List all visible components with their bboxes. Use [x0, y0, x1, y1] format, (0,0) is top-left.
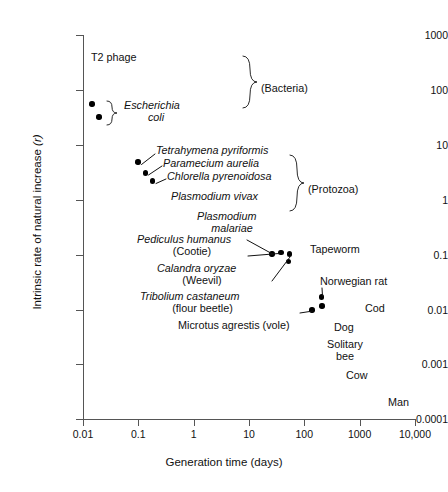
label-escherichia-coli-species: coli [124, 111, 188, 123]
x-tick-label-10000: 10,000 [385, 429, 445, 440]
y-tick-0.0001 [76, 419, 83, 420]
label-tribolium-common-name: (flour beetle) [140, 302, 265, 314]
y-tick-0.001 [76, 364, 83, 365]
label-microtus-agrestis: Microtus agrestis (vole) [178, 319, 290, 331]
y-tick-label-100: 100 [388, 85, 448, 96]
label-group-bacteria: (Bacteria) [261, 82, 308, 94]
y-tick-label-0.0001: 0.0001 [388, 414, 448, 425]
label-calandra-common-name: (Weevil) [157, 274, 247, 286]
y-tick-label-1000: 1000 [388, 30, 448, 41]
y-tick-label-0.01: 0.01 [388, 305, 448, 316]
label-chlorella-pyrenoidosa: Chlorella pyrenoidosa [167, 170, 271, 182]
data-point [135, 159, 140, 164]
data-point [143, 170, 148, 175]
label-solitary-bee-line2: bee [314, 350, 376, 362]
x-tick-label-0.01: 0.01 [53, 429, 113, 440]
x-tick-label-1000: 1000 [330, 429, 390, 440]
x-axis-title: Generation time (days) [0, 456, 448, 468]
y-axis-title-text: Intrinsic rate of natural increase [31, 146, 43, 310]
y-tick-label-0.1: 0.1 [388, 250, 448, 261]
data-point [319, 294, 324, 299]
data-point [287, 251, 292, 256]
x-tick-label-100: 100 [274, 429, 334, 440]
y-tick-label-0.001: 0.001 [388, 359, 448, 370]
label-t2-phage: T2 phage [91, 51, 137, 63]
label-plasmodium-malariae-genus: Plasmodium [197, 210, 256, 222]
label-tribolium-castaneum: Tribolium castaneum [140, 290, 239, 302]
label-cod: Cod [365, 302, 385, 314]
label-tetrahymena-pyriformis: Tetrahymena pyriformis [156, 144, 268, 156]
y-tick-1 [76, 200, 83, 201]
data-point [269, 251, 274, 256]
x-tick-1000 [360, 419, 361, 426]
y-tick-100 [76, 90, 83, 91]
y-tick-label-1: 1 [388, 195, 448, 206]
x-tick-100 [304, 419, 305, 426]
data-point [278, 250, 283, 255]
x-tick-10 [249, 419, 250, 426]
x-tick-label-10: 10 [219, 429, 279, 440]
label-plasmodium-vivax: Plasmodium vivax [171, 190, 258, 202]
y-tick-10 [76, 145, 83, 146]
data-point [309, 307, 314, 312]
label-calandra-oryzae: Calandra oryzae [157, 262, 236, 274]
label-group-protozoa: (Protozoa) [308, 183, 358, 195]
x-tick-1 [194, 419, 195, 426]
x-tick-0.01 [83, 419, 84, 426]
y-axis-title: Intrinsic rate of natural increase (r) [31, 97, 43, 347]
data-point [89, 101, 94, 106]
x-tick-0.1 [138, 419, 139, 426]
x-tick-10000 [415, 419, 416, 426]
y-tick-0.1 [76, 255, 83, 256]
x-tick-label-0.1: 0.1 [108, 429, 168, 440]
x-tick-label-1: 1 [164, 429, 224, 440]
data-point [150, 178, 155, 183]
chart-figure: 1000 100 10 1 0.1 0.01 0.001 0.0001 0.01… [0, 0, 448, 492]
data-point [286, 259, 291, 264]
label-paramecium-aurelia: Paramecium aurelia [163, 157, 259, 169]
data-point [96, 114, 101, 119]
y-axis-title-symbol: (r) [31, 134, 43, 146]
y-tick-label-10: 10 [388, 140, 448, 151]
label-pediculus-humanus: Pediculus humanus [137, 233, 231, 245]
label-escherichia-coli-genus: Escherichia [124, 99, 180, 111]
y-tick-0.01 [76, 310, 83, 311]
label-norwegian-rat: Norwegian rat [320, 275, 387, 287]
label-microtus-binomial: Microtus agrestis [178, 319, 260, 331]
y-tick-1000 [76, 35, 83, 36]
label-dog: Dog [334, 321, 354, 333]
label-cow: Cow [346, 369, 368, 381]
label-man: Man [388, 396, 409, 408]
label-tapeworm: Tapeworm [310, 243, 360, 255]
label-microtus-common-name: (vole) [260, 319, 290, 331]
data-point [319, 303, 324, 308]
label-solitary-bee-line1: Solitary [314, 338, 376, 350]
y-axis-line [83, 35, 84, 420]
label-pediculus-common-name: (Cootie) [137, 245, 247, 257]
